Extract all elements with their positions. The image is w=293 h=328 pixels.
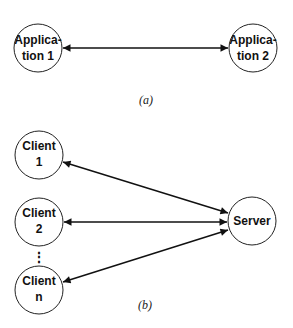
node-label-line2: 1 xyxy=(36,155,43,169)
node-client-1: Client 1 xyxy=(15,131,63,179)
node-label-line2: 2 xyxy=(36,222,43,236)
node-client-2: Client 2 xyxy=(15,198,63,246)
node-server: Server xyxy=(228,197,276,245)
node-label: Server xyxy=(233,214,271,228)
diagram-canvas: Applica- tion 1 Applica- tion 2 (a) Clie… xyxy=(0,0,293,328)
node-client-n: Client n xyxy=(15,266,63,314)
node-label-line2: tion 2 xyxy=(237,49,269,63)
caption-a: (a) xyxy=(139,93,153,107)
node-label-line1: Client xyxy=(22,274,55,288)
node-label-line1: Applica- xyxy=(229,33,276,47)
caption-b: (b) xyxy=(138,298,152,312)
node-label-line1: Applica- xyxy=(14,33,61,47)
node-label-line1: Client xyxy=(22,139,55,153)
node-label-line2: n xyxy=(35,290,42,304)
edge-clientn-server xyxy=(63,230,228,282)
node-application-2: Applica- tion 2 xyxy=(229,24,277,72)
node-label-line2: tion 1 xyxy=(22,49,54,63)
diagram-a: Applica- tion 1 Applica- tion 2 (a) xyxy=(14,24,277,107)
ellipsis-vertical: ⋮ xyxy=(32,249,46,265)
diagram-b: Client 1 Client 2 ⋮ Client n Server (b) xyxy=(15,131,276,314)
node-label-line1: Client xyxy=(22,206,55,220)
node-application-1: Applica- tion 1 xyxy=(14,24,62,72)
edge-client1-server xyxy=(63,162,228,213)
